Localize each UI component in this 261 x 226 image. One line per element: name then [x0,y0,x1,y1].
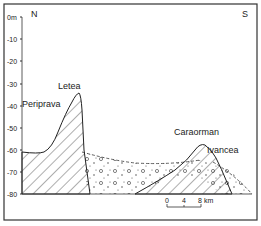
south-label: S [242,9,248,19]
y-tick-20: -20 [7,58,17,65]
y-tick-80: -80 [7,191,17,198]
label-letea: Letea [58,81,81,91]
y-tick-40: -40 [7,103,17,110]
y-tick-30: -30 [7,81,17,88]
scale-tick-8: 8 [198,197,202,204]
label-ivancea: Ivancea [207,145,239,155]
y-tick-70: -70 [7,169,17,176]
scale-unit: km [204,197,214,204]
label-periprava: Periprava [22,99,61,109]
y-tick-0: 0m [7,14,17,21]
label-caraorman: Caraorman [174,127,219,137]
scale-tick-0: 0 [165,197,169,204]
scale-bar: 0 4 8 km [165,197,214,207]
y-tick-60: -60 [7,147,17,154]
geological-cross-section: 0m -10 -20 -30 -40 -50 -60 -70 -80 N S P… [0,0,261,226]
y-axis: 0m -10 -20 -30 -40 -50 -60 -70 -80 [7,14,22,198]
north-label: N [31,9,38,19]
scale-tick-4: 4 [182,197,186,204]
y-tick-10: -10 [7,36,17,43]
y-tick-50: -50 [7,125,17,132]
